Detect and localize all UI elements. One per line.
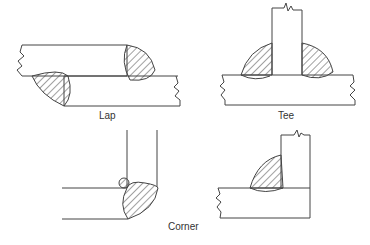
- corner-joint-left: [62, 130, 158, 219]
- tee-joint: [220, 3, 355, 105]
- label-lap: Lap: [99, 110, 116, 121]
- lap-weld-right: [124, 45, 155, 80]
- corner-weld-large: [123, 182, 158, 219]
- tee-weld-right: [302, 43, 333, 78]
- label-tee: Tee: [278, 110, 294, 121]
- weld-joints-diagram: [0, 0, 370, 245]
- tee-weld-left: [241, 43, 272, 75]
- corner-joint-right: [216, 130, 310, 218]
- lap-weld-left: [32, 72, 70, 106]
- label-corner: Corner: [168, 221, 199, 232]
- lap-joint: [17, 45, 180, 106]
- corner-weld-right: [250, 155, 283, 188]
